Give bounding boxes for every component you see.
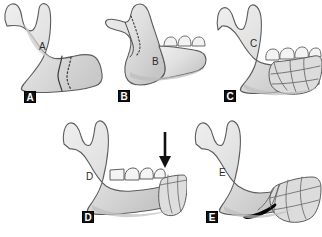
panel-d: D D — [52, 118, 187, 237]
panel-d-badge: D — [82, 211, 94, 223]
panel-d-illustration — [52, 118, 187, 237]
panel-d-inner-label: D — [86, 172, 93, 182]
teeth-row-d — [110, 168, 165, 180]
panel-e-badge: E — [206, 211, 218, 223]
panel-c-badge: C — [224, 90, 236, 102]
panel-c-illustration — [204, 0, 322, 112]
panel-b-badge: B — [118, 90, 130, 102]
mandible-outline-d — [63, 121, 172, 214]
panel-a-illustration — [0, 0, 105, 112]
panel-a: A A — [0, 0, 105, 112]
panel-b-inner-label: B — [152, 57, 159, 67]
panel-a-badge: A — [24, 91, 36, 103]
mandible-body-b — [159, 46, 206, 79]
panel-c-inner-label: C — [250, 39, 257, 49]
panel-a-inner-label: A — [39, 42, 46, 52]
panel-e-inner-label: E — [219, 168, 226, 178]
graft-block-c — [269, 56, 322, 94]
panel-b: B B — [100, 0, 212, 112]
figure-canvas: A A — [0, 0, 322, 237]
teeth-row-b — [164, 36, 205, 46]
mandible-outline-b — [106, 4, 166, 85]
down-arrow-d — [159, 132, 171, 168]
panel-c: C C — [204, 0, 322, 112]
mandible-outline-a — [5, 4, 102, 93]
graft-block-e — [270, 177, 321, 222]
panel-e-illustration — [184, 118, 322, 237]
panel-e: E E — [184, 118, 322, 237]
